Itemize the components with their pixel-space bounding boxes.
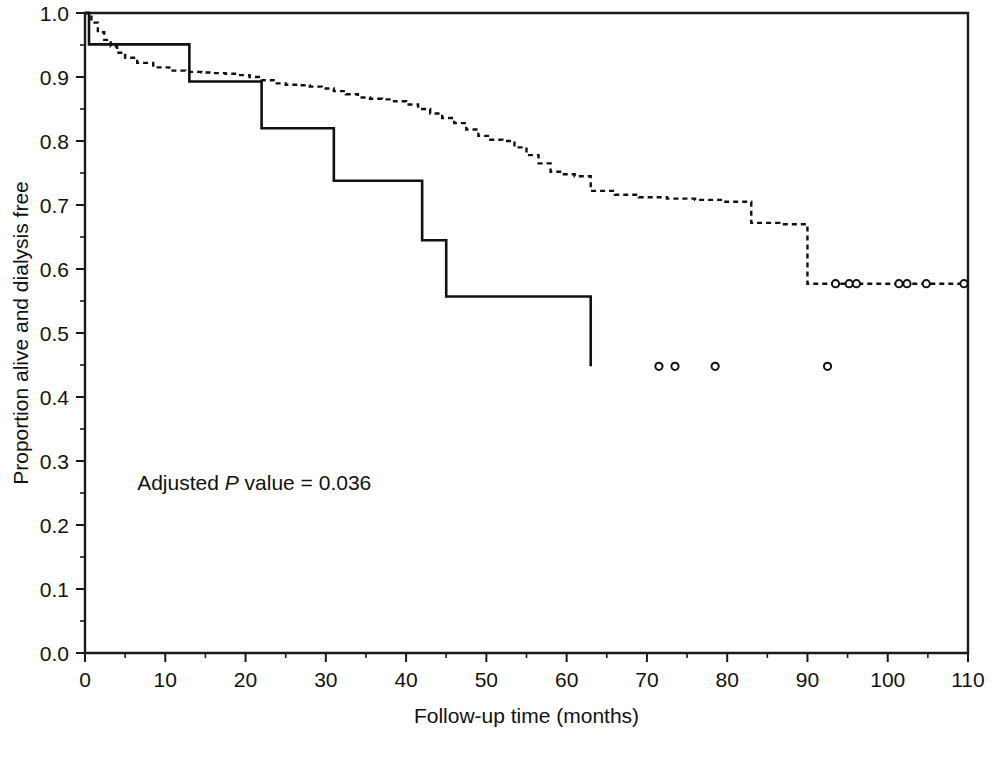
x-tick-label: 50: [475, 668, 498, 691]
y-tick-label: 0.9: [40, 66, 69, 89]
kaplan-meier-figure: 01020304050607080901001100.00.10.20.30.4…: [0, 0, 1000, 760]
x-tick-label: 80: [716, 668, 739, 691]
plot-frame: [85, 13, 968, 653]
x-axis-title: Follow-up time (months): [414, 704, 639, 727]
x-tick-label: 20: [234, 668, 257, 691]
censor-mark: [846, 280, 853, 287]
annotation-prefix: Adjusted: [137, 471, 225, 494]
censor-mark: [671, 363, 678, 370]
censor-mark: [853, 280, 860, 287]
y-tick-label: 0.1: [40, 578, 69, 601]
censor-mark: [832, 280, 839, 287]
p-value-annotation: Adjusted P value = 0.036: [137, 471, 371, 494]
y-axis-title: Proportion alive and dialysis free: [9, 181, 32, 485]
censor-mark: [903, 280, 910, 287]
x-tick-label: 0: [79, 668, 91, 691]
censor-mark: [960, 280, 967, 287]
annotation-suffix: value = 0.036: [239, 471, 372, 494]
x-tick-label: 40: [394, 668, 417, 691]
x-tick-label: 110: [951, 668, 984, 691]
x-tick-label: 90: [796, 668, 819, 691]
x-tick-label: 70: [635, 668, 658, 691]
censor-mark: [712, 363, 719, 370]
censor-mark: [895, 280, 902, 287]
dashed-survival-curve: [85, 13, 968, 284]
y-tick-label: 0.4: [40, 386, 70, 409]
x-tick-label: 10: [154, 668, 177, 691]
y-tick-label: 0.0: [40, 642, 69, 665]
y-tick-label: 0.7: [40, 194, 69, 217]
censor-mark: [655, 363, 662, 370]
y-tick-label: 0.6: [40, 258, 69, 281]
y-tick-label: 1.0: [40, 2, 69, 25]
survival-chart: 01020304050607080901001100.00.10.20.30.4…: [0, 0, 1000, 760]
censor-mark: [923, 280, 930, 287]
censor-mark: [824, 363, 831, 370]
y-tick-label: 0.2: [40, 514, 69, 537]
y-tick-label: 0.3: [40, 450, 69, 473]
y-tick-label: 0.8: [40, 130, 69, 153]
x-tick-label: 100: [870, 668, 905, 691]
y-tick-label: 0.5: [40, 322, 69, 345]
annotation-p-symbol: P: [225, 471, 239, 494]
solid-survival-curve: [85, 13, 591, 366]
x-tick-label: 60: [555, 668, 578, 691]
x-tick-label: 30: [314, 668, 337, 691]
